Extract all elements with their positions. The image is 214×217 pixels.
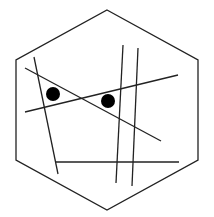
dot-2 — [101, 94, 115, 108]
dot-1 — [46, 87, 60, 101]
hexagon-line-diagram — [0, 0, 214, 217]
line-group — [25, 45, 179, 186]
line-b — [25, 68, 161, 141]
line-e — [132, 48, 138, 186]
hexagon-outline — [16, 10, 198, 210]
